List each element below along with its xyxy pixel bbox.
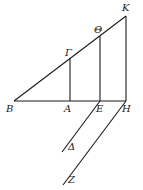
label-B: B — [5, 103, 13, 114]
label-K: K — [121, 2, 130, 13]
geometry-diagram: K Θ Γ B A E H Δ Z — [0, 0, 143, 190]
label-Theta: Θ — [94, 24, 102, 35]
label-Delta: Δ — [67, 141, 75, 152]
label-E: E — [95, 103, 104, 114]
label-Z: Z — [67, 174, 76, 185]
label-Gamma: Γ — [64, 47, 73, 58]
label-H: H — [121, 103, 131, 114]
diagram-canvas: K Θ Γ B A E H Δ Z — [0, 0, 143, 190]
label-A: A — [63, 103, 71, 114]
